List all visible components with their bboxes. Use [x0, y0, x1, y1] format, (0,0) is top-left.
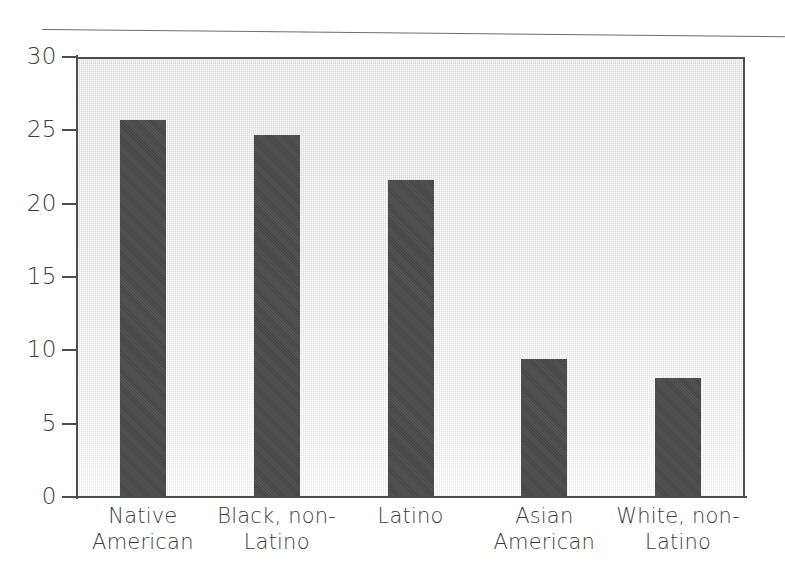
x-axis-label-line-1: Asian: [515, 504, 573, 528]
y-axis-tick-label: 15: [11, 265, 57, 288]
y-axis-tick-label: 25: [11, 118, 57, 141]
x-axis-label-line-1: Native: [108, 504, 177, 528]
y-axis-tick-label: 5: [11, 412, 57, 435]
y-axis-tick: [62, 56, 76, 58]
bar: [655, 378, 701, 497]
y-axis-line: [76, 55, 78, 499]
y-axis-tick: [62, 129, 76, 131]
y-axis-tick: [62, 496, 76, 498]
x-axis-label-line-1: Black, non-: [217, 504, 336, 528]
x-axis-line: [62, 496, 747, 498]
bar: [254, 135, 300, 497]
y-axis-tick: [62, 423, 76, 425]
y-axis-tick-label: 20: [11, 192, 57, 215]
y-axis-tick: [62, 276, 76, 278]
y-axis-tick-label: 0: [11, 485, 57, 508]
bar: [521, 359, 567, 497]
x-axis-label-line-2: Latino: [593, 529, 763, 555]
y-axis-tick: [62, 203, 76, 205]
x-axis-label-line-1: Latino: [378, 504, 444, 528]
y-axis-tick: [62, 349, 76, 351]
page-rule: [42, 29, 785, 37]
y-axis-tick-label: 30: [11, 45, 57, 68]
x-axis-category-label: White, non-Latino: [593, 503, 763, 555]
bar: [120, 120, 166, 497]
x-axis-label-line-1: White, non-: [616, 504, 740, 528]
x-axis-label-line-2: Latino: [192, 529, 362, 555]
bar: [388, 180, 434, 497]
bars-layer: [76, 57, 745, 497]
y-axis-tick-label: 10: [11, 338, 57, 361]
